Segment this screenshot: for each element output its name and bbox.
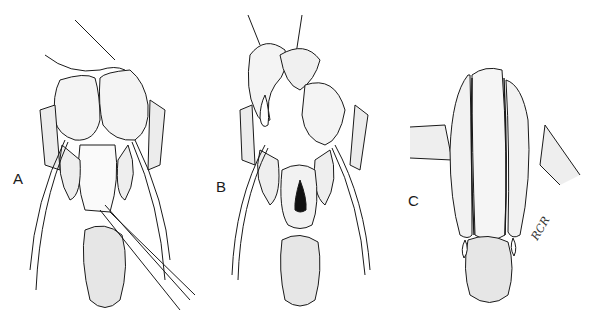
panel-a: A [0,0,200,330]
panel-a-drawing [0,0,200,330]
panel-label-b: B [216,178,226,195]
panel-label-a: A [13,170,23,187]
panel-c: C RCR [390,0,592,330]
panel-b: B [190,0,390,330]
panel-label-c: C [408,192,419,209]
surgical-illustration: A B [0,0,592,330]
panel-c-drawing [390,0,592,330]
panel-b-drawing [190,0,390,330]
